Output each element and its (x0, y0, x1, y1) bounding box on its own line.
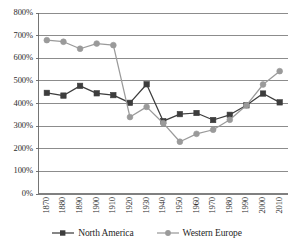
data-point-marker (44, 90, 49, 95)
data-point-marker (244, 102, 250, 108)
data-point-marker (61, 39, 67, 45)
data-point-marker (277, 100, 282, 105)
legend-label: North America (78, 228, 133, 238)
data-point-marker (194, 110, 199, 115)
data-point-marker (260, 91, 265, 96)
data-point-marker (277, 68, 283, 74)
x-axis-tick-label: 1990 (241, 197, 250, 214)
data-point-marker (177, 111, 182, 116)
data-point-marker (44, 37, 50, 43)
x-axis-tick-label: 2010 (275, 197, 284, 214)
x-axis-tick-label: 1930 (142, 197, 151, 214)
chart-legend: North AmericaWestern Europe (0, 228, 293, 238)
data-point-marker (194, 131, 200, 137)
legend-item-north-america[interactable]: North America (51, 228, 133, 238)
data-point-marker (61, 93, 66, 98)
data-point-marker (94, 91, 99, 96)
capital-income-ratio-chart: 0%100%200%300%400%500%600%700%800% 18701… (0, 0, 293, 249)
axis-lines (36, 13, 39, 194)
data-point-marker (77, 83, 82, 88)
data-point-marker (210, 117, 215, 122)
x-axis-tick-label: 1950 (175, 197, 184, 214)
series-western-europe (44, 37, 283, 144)
data-point-marker (111, 92, 116, 97)
series-layer (44, 37, 283, 144)
data-point-marker (144, 82, 149, 87)
x-axis-tick-label: 2000 (258, 197, 267, 214)
x-axis-tick-label: 1960 (192, 197, 201, 214)
data-point-marker (144, 104, 150, 110)
x-axis-tick-label: 1900 (92, 197, 101, 214)
x-axis-tick-label: 1870 (42, 197, 51, 214)
data-point-marker (177, 139, 183, 145)
x-axis-tick-label: 1980 (225, 197, 234, 214)
data-point-marker (227, 117, 233, 123)
data-point-marker (127, 114, 133, 120)
x-axis-tick-label: 1940 (158, 197, 167, 214)
data-point-marker (127, 100, 132, 105)
data-point-marker (210, 127, 216, 133)
x-axis-tick-label: 1880 (58, 197, 67, 214)
x-axis-tick-label: 1910 (108, 197, 117, 214)
data-point-marker (94, 41, 100, 47)
gridlines (39, 13, 289, 194)
circle-marker-icon (156, 228, 180, 238)
legend-item-western-europe[interactable]: Western Europe (156, 228, 242, 238)
data-point-marker (160, 120, 166, 126)
x-axis-tick-label: 1920 (125, 197, 134, 214)
x-axis-tick-label: 1970 (208, 197, 217, 214)
x-axis-tick-label: 1890 (75, 197, 84, 214)
data-point-marker (260, 82, 266, 88)
data-point-marker (77, 46, 83, 52)
legend-label: Western Europe (183, 228, 242, 238)
square-marker-icon (51, 228, 75, 238)
data-point-marker (110, 42, 116, 48)
